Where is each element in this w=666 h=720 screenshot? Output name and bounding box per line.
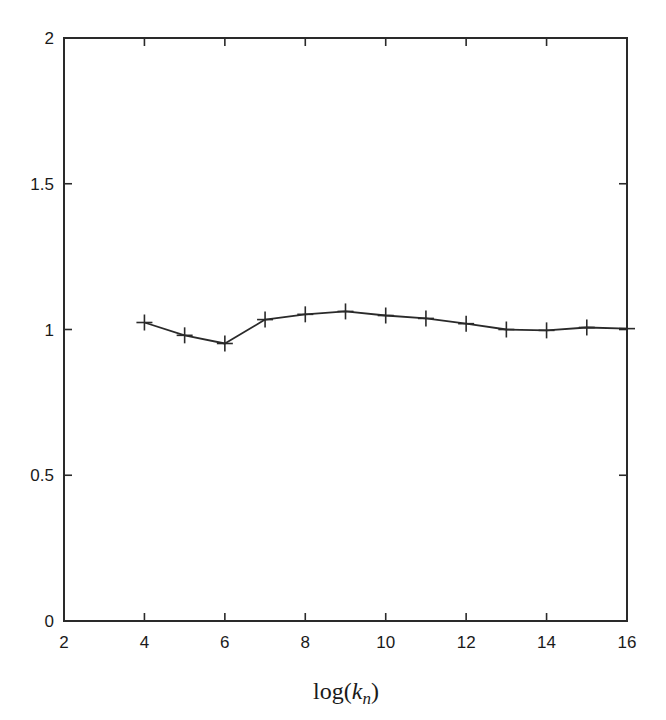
x-tick-label: 12 [457,633,476,652]
plus-marker [378,308,394,324]
plus-marker [217,335,233,351]
y-axis-tick-labels: 00.511.52 [30,29,54,631]
plus-marker [619,321,635,337]
x-axis-title-variable: k [352,678,363,704]
x-axis-title-prefix: log( [313,678,352,704]
x-axis-title-suffix: ) [371,678,379,704]
x-tick-label: 6 [220,633,229,652]
x-tick-label: 8 [301,633,310,652]
x-tick-label: 16 [618,633,637,652]
plus-marker [257,312,273,328]
x-axis-title-subscript: n [362,689,371,708]
plus-marker [297,306,313,322]
x-tick-label: 14 [537,633,556,652]
plus-marker [338,303,354,319]
y-tick-label: 2 [45,29,54,48]
x-axis-title: log(kn) [313,678,379,708]
plus-marker [579,319,595,335]
y-tick-label: 0.5 [30,466,54,485]
plus-marker [136,315,152,331]
plus-marker [418,310,434,326]
x-axis-tick-labels: 246810121416 [59,633,636,652]
y-tick-label: 1 [45,321,54,340]
y-tick-label: 1.5 [30,175,54,194]
plus-marker [177,327,193,343]
x-tick-label: 4 [140,633,149,652]
x-tick-label: 10 [376,633,395,652]
data-point-markers [136,303,635,351]
plus-marker [458,316,474,332]
y-tick-label: 0 [45,612,54,631]
plus-marker [498,322,514,338]
line-chart: 00.511.52 246810121416 log(kn) [0,0,666,720]
plus-marker [539,322,555,338]
x-tick-label: 2 [59,633,68,652]
